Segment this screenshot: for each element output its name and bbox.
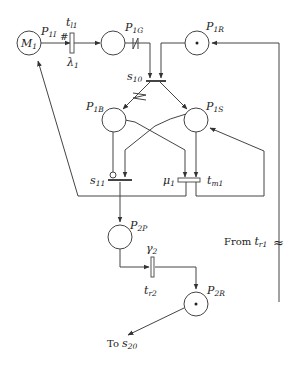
place-m1: M1 (17, 31, 41, 55)
arc-s10-to-p1s (160, 82, 187, 109)
place-p1r (185, 31, 209, 55)
transition-s11 (108, 179, 132, 181)
label-p1b: P1B (85, 100, 104, 114)
label-tm1: tm1 (207, 174, 223, 188)
arc-from-tr1-to-p1r (212, 43, 279, 302)
label-p1s: P1S (205, 100, 223, 114)
arc-p1r-to-s10 (161, 43, 185, 78)
place-p1g (101, 31, 125, 55)
place-p2p (108, 225, 132, 249)
transition-s10 (146, 80, 166, 82)
arc-p1b-to-tm1 (125, 120, 185, 177)
label-p1r: P1R (205, 20, 224, 34)
petri-net-diagram: M1 P1I tl1 # λ1 P1G P1R s10 P1B P1S s11 … (0, 0, 299, 367)
label-from-tr1: From tr1 (224, 235, 267, 249)
label-tr2: tr2 (144, 284, 157, 298)
label-p1g: P1G (124, 21, 143, 35)
label-mu1: μ1 (163, 174, 175, 188)
transition-tl1 (70, 33, 74, 53)
token-icon (195, 303, 198, 306)
token-icon (196, 42, 199, 45)
transition-tr2 (151, 257, 154, 277)
label-p2p: P2P (129, 219, 148, 233)
label-hash: # (60, 31, 68, 42)
place-p2r (184, 292, 208, 316)
arc-p2r-to-s20 (128, 308, 184, 335)
label-s11: s11 (90, 174, 105, 188)
inhibitor-circle-icon (110, 172, 116, 178)
label-to-s20: To s20 (107, 337, 138, 351)
label-gamma2: γ2 (146, 242, 158, 256)
label-p1i: P1I (40, 25, 57, 39)
transition-tm1 (178, 178, 200, 182)
place-p1s (184, 108, 208, 132)
label-s10: s10 (127, 70, 142, 84)
break-symbol-icon: ≈ (273, 235, 284, 250)
label-tl1: tl1 (66, 16, 78, 30)
label-p2r: P2R (206, 284, 225, 298)
label-lambda1: λ1 (66, 56, 79, 70)
place-p1b (102, 108, 126, 132)
arc-p2p-to-tr2 (120, 249, 149, 267)
arc-tr2-to-p2r (155, 267, 196, 289)
